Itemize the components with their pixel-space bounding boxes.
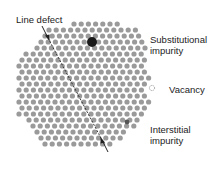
atom bbox=[89, 135, 94, 140]
atom bbox=[52, 123, 57, 128]
vacancy-site bbox=[149, 85, 154, 90]
atom bbox=[49, 129, 54, 134]
atom bbox=[27, 81, 32, 86]
atom bbox=[117, 87, 122, 92]
atom bbox=[91, 93, 96, 98]
atom bbox=[67, 39, 72, 44]
atom bbox=[100, 33, 105, 38]
atom bbox=[48, 93, 53, 98]
atom bbox=[38, 75, 43, 80]
atom bbox=[70, 93, 75, 98]
atom bbox=[142, 45, 147, 50]
atom bbox=[48, 81, 53, 86]
atom bbox=[55, 117, 60, 122]
atom bbox=[110, 123, 115, 128]
atom bbox=[146, 75, 151, 80]
atom bbox=[74, 111, 79, 116]
atom bbox=[60, 75, 65, 80]
atom bbox=[117, 75, 122, 80]
atom bbox=[110, 51, 115, 56]
atom bbox=[122, 33, 127, 38]
atom bbox=[115, 21, 120, 26]
atom bbox=[55, 69, 60, 74]
atom bbox=[95, 51, 100, 56]
atom bbox=[46, 27, 51, 32]
atom bbox=[63, 105, 68, 110]
atom bbox=[34, 81, 39, 86]
atom bbox=[84, 57, 89, 62]
atom bbox=[24, 111, 29, 116]
atom bbox=[110, 63, 115, 68]
atom bbox=[132, 99, 137, 104]
atom bbox=[113, 69, 118, 74]
atom bbox=[31, 111, 36, 116]
atom bbox=[86, 141, 91, 146]
atom bbox=[118, 27, 123, 32]
atom bbox=[45, 87, 50, 92]
atom bbox=[70, 57, 75, 62]
atom bbox=[132, 39, 137, 44]
atom bbox=[45, 123, 50, 128]
atom bbox=[132, 63, 137, 68]
atom bbox=[96, 135, 101, 140]
atom bbox=[110, 87, 115, 92]
label-interstitial-text-1: Interstitial bbox=[150, 124, 191, 135]
atom bbox=[68, 27, 73, 32]
atom bbox=[107, 141, 112, 146]
atom bbox=[52, 99, 57, 104]
atom bbox=[142, 57, 147, 62]
atom bbox=[135, 45, 140, 50]
atom bbox=[77, 69, 82, 74]
atom bbox=[70, 129, 75, 134]
atom bbox=[67, 75, 72, 80]
atom bbox=[81, 51, 86, 56]
atom bbox=[71, 141, 76, 146]
atom bbox=[127, 57, 132, 62]
atom bbox=[67, 135, 72, 140]
atom bbox=[41, 93, 46, 98]
atom bbox=[84, 105, 89, 110]
atom bbox=[110, 135, 115, 140]
atom bbox=[60, 135, 65, 140]
atom bbox=[63, 93, 68, 98]
atom bbox=[88, 123, 93, 128]
atom bbox=[106, 81, 111, 86]
atom bbox=[77, 57, 82, 62]
atom bbox=[57, 141, 62, 146]
atom bbox=[99, 69, 104, 74]
atom bbox=[124, 63, 129, 68]
atom bbox=[103, 51, 108, 56]
atom bbox=[103, 87, 108, 92]
atom bbox=[102, 123, 107, 128]
atom bbox=[74, 51, 79, 56]
atom bbox=[88, 75, 93, 80]
atom bbox=[114, 129, 119, 134]
atom bbox=[74, 39, 79, 44]
lattice-defects-diagram: Line defect Substitutional impurity Vaca… bbox=[0, 0, 220, 170]
atom bbox=[120, 93, 125, 98]
atom bbox=[45, 75, 50, 80]
atom bbox=[27, 57, 32, 62]
atom bbox=[48, 69, 53, 74]
atom bbox=[31, 99, 36, 104]
label-interstitial-text-2: impurity bbox=[150, 135, 191, 146]
atom bbox=[139, 87, 144, 92]
atom bbox=[96, 99, 101, 104]
atom bbox=[38, 135, 43, 140]
atom bbox=[127, 105, 132, 110]
atom bbox=[38, 99, 43, 104]
atom bbox=[91, 57, 96, 62]
atom bbox=[77, 105, 82, 110]
atom bbox=[52, 63, 57, 68]
atom bbox=[99, 81, 104, 86]
atom bbox=[86, 21, 91, 26]
atom-lattice bbox=[16, 21, 151, 146]
atom bbox=[104, 27, 109, 32]
atom bbox=[96, 63, 101, 68]
atom bbox=[77, 93, 82, 98]
atom bbox=[129, 33, 134, 38]
atom bbox=[110, 39, 115, 44]
atom bbox=[106, 57, 111, 62]
atom bbox=[16, 63, 21, 68]
atom bbox=[78, 129, 83, 134]
